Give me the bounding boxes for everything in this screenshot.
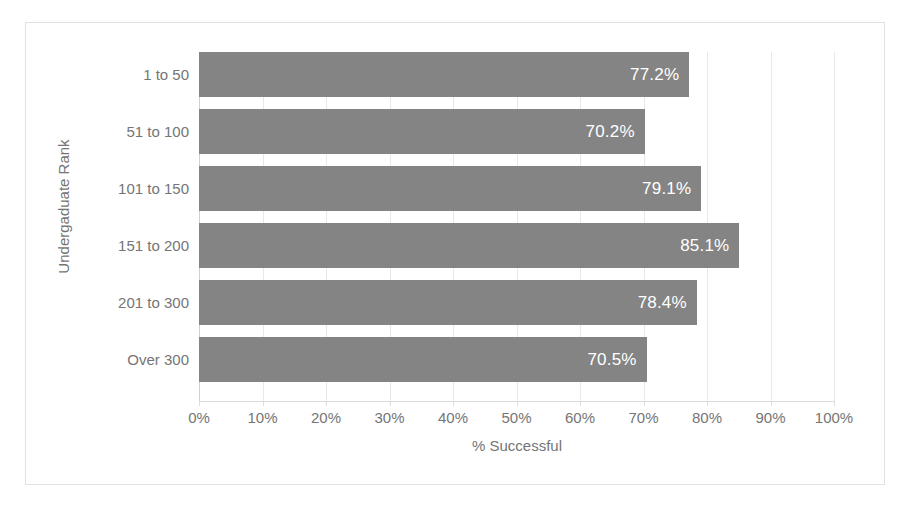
x-tick-label: 100%	[815, 409, 853, 426]
bar[interactable]	[199, 337, 647, 382]
bar-row[interactable]: 70.5%	[199, 337, 834, 382]
bar-value-label: 78.4%	[638, 293, 687, 313]
bar-value-label: 70.2%	[586, 122, 635, 142]
x-tick-label: 40%	[438, 409, 468, 426]
x-tick-label: 90%	[755, 409, 785, 426]
bar-value-label: 70.5%	[587, 350, 636, 370]
x-tick-label: 20%	[311, 409, 341, 426]
axis-tick-10%	[263, 401, 264, 406]
gridline-100%	[834, 52, 835, 401]
bar-row[interactable]: 70.2%	[199, 109, 834, 154]
category-axis-labels: 1 to 5051 to 100101 to 150151 to 200201 …	[26, 52, 189, 401]
x-axis-title: % Successful	[199, 437, 835, 454]
axis-tick-0%	[199, 401, 200, 406]
axis-tick-80%	[707, 401, 708, 406]
bar[interactable]	[199, 166, 701, 211]
axis-tick-100%	[834, 401, 835, 406]
bar-row[interactable]: 85.1%	[199, 223, 834, 268]
x-tick-label: 30%	[374, 409, 404, 426]
x-tick-label: 60%	[565, 409, 595, 426]
axis-tick-20%	[326, 401, 327, 406]
bar-row[interactable]: 79.1%	[199, 166, 834, 211]
x-axis-tick-labels: 0%10%20%30%40%50%60%70%80%90%100%	[199, 409, 835, 431]
bar[interactable]	[199, 223, 739, 268]
x-tick-label: 10%	[247, 409, 277, 426]
axis-tick-90%	[771, 401, 772, 406]
x-tick-label: 0%	[188, 409, 210, 426]
x-tick-label: 70%	[628, 409, 658, 426]
bar-value-label: 85.1%	[680, 236, 729, 256]
category-label: 101 to 150	[118, 166, 189, 211]
axis-tick-70%	[644, 401, 645, 406]
bar-row[interactable]: 77.2%	[199, 52, 834, 97]
bar[interactable]	[199, 280, 697, 325]
bar[interactable]	[199, 109, 645, 154]
bar-row[interactable]: 78.4%	[199, 280, 834, 325]
bar[interactable]	[199, 52, 689, 97]
x-tick-label: 80%	[692, 409, 722, 426]
category-label: 201 to 300	[118, 280, 189, 325]
category-label: Over 300	[127, 337, 189, 382]
chart-frame: 77.2%70.2%79.1%85.1%78.4%70.5% 1 to 5051…	[25, 22, 885, 485]
plot-area: 77.2%70.2%79.1%85.1%78.4%70.5%	[199, 52, 834, 401]
category-label: 51 to 100	[126, 109, 189, 154]
bar-value-label: 79.1%	[642, 179, 691, 199]
axis-tick-30%	[390, 401, 391, 406]
category-label: 151 to 200	[118, 223, 189, 268]
y-axis-title: Undergaduate Rank	[55, 107, 72, 307]
axis-tick-60%	[580, 401, 581, 406]
category-label: 1 to 50	[143, 52, 189, 97]
axis-tick-40%	[453, 401, 454, 406]
x-tick-label: 50%	[501, 409, 531, 426]
bar-value-label: 77.2%	[630, 65, 679, 85]
axis-tick-50%	[517, 401, 518, 406]
